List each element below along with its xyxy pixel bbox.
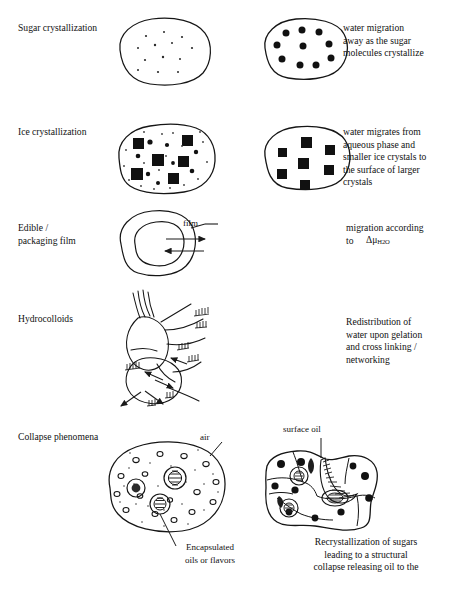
hydrocolloid-network-figure	[105, 288, 245, 410]
row-label-hydrocolloids: Hydrocolloids	[18, 313, 73, 326]
ice-blob-large-crystals-figure	[258, 118, 354, 196]
callout-label-film: film	[183, 217, 198, 230]
film-coated-particle-figure	[108, 206, 248, 282]
row-label-ice-crystallization: Ice crystallization	[18, 126, 86, 139]
delta-mu-symbol: Δμ	[366, 234, 377, 245]
row-label-sugar-crystallization: Sugar crystallization	[18, 22, 97, 35]
collapsed-matrix-surface-oil-figure	[253, 436, 389, 538]
ice-blob-mixed-figure	[110, 116, 222, 200]
callout-label-encapsulated-oils: Encapsulated oils or flavors	[158, 541, 262, 566]
delta-mu-subscript: H2O	[377, 238, 389, 245]
row-note-sugar-crystallization: water migration away as the sugar molecu…	[343, 22, 424, 60]
porous-matrix-with-capsules-figure	[100, 436, 236, 546]
row-note-ice-crystallization: water migrates from aqueous phase and sm…	[343, 126, 426, 189]
sugar-blob-crystallized-figure	[258, 12, 350, 84]
row-label-edible-packaging-film: Edible / packaging film	[18, 222, 76, 247]
figure-page: Sugar crystallization	[0, 0, 457, 594]
row-note-hydrocolloids: Redistribution of water upon gelation an…	[346, 316, 422, 366]
callout-label-surface-oil: surface oil	[283, 423, 321, 436]
sugar-blob-dispersed-figure	[108, 10, 218, 90]
row-label-collapse-phenomena: Collapse phenomena	[18, 431, 98, 444]
row-note-edible-packaging-film-symbol: ΔμH2O	[366, 234, 390, 249]
row-caption-collapse-phenomena: Recrystallization of sugars leading to a…	[280, 536, 452, 574]
